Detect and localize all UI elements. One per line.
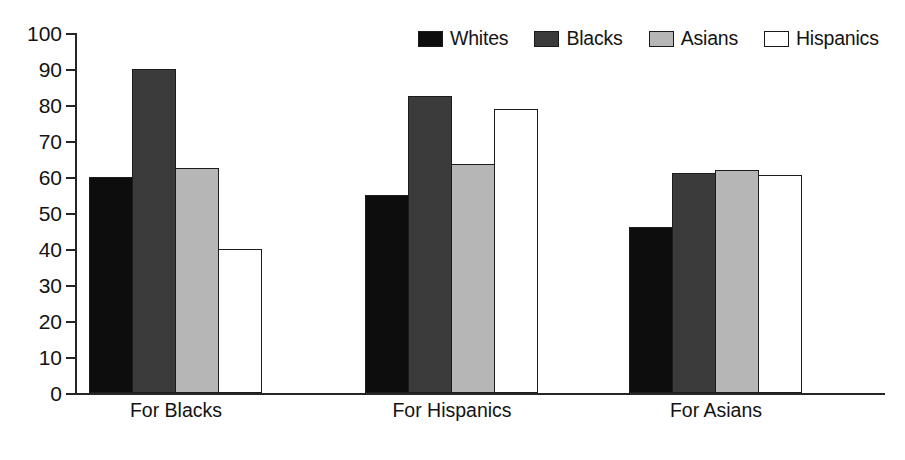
y-tick-mark: [66, 393, 75, 395]
y-tick-label: 90: [39, 59, 62, 80]
y-tick-mark: [66, 177, 75, 179]
plot-area: 0102030405060708090100 For BlacksFor His…: [75, 33, 885, 393]
y-tick-mark: [66, 213, 75, 215]
y-tick-label: 100: [27, 23, 62, 44]
x-axis-line: [75, 393, 885, 395]
bar-blacks-for-hispanics: [408, 96, 453, 393]
bar-whites-for-blacks: [89, 177, 134, 393]
category-label: For Blacks: [65, 401, 287, 421]
bar-group: [629, 33, 802, 393]
bar-asians-for-hispanics: [451, 164, 496, 393]
bar-group: [89, 33, 262, 393]
bar-whites-for-hispanics: [365, 195, 410, 393]
bar-groups: [77, 33, 885, 393]
bar-hispanics-for-asians: [758, 175, 803, 393]
bar-asians-for-asians: [715, 170, 760, 393]
bar-blacks-for-asians: [672, 173, 717, 393]
y-tick-label: 60: [39, 167, 62, 188]
bar-chart: Whites Blacks Asians Hispanics 010203040…: [0, 0, 905, 460]
y-tick-label: 30: [39, 275, 62, 296]
y-tick-mark: [66, 357, 75, 359]
bar-asians-for-blacks: [175, 168, 220, 393]
y-tick-label: 10: [39, 347, 62, 368]
bar-hispanics-for-blacks: [218, 249, 263, 393]
y-tick-mark: [66, 321, 75, 323]
y-tick-mark: [66, 141, 75, 143]
bar-hispanics-for-hispanics: [494, 109, 539, 393]
category-label: For Hispanics: [341, 401, 563, 421]
bar-group: [365, 33, 538, 393]
y-tick-mark: [66, 285, 75, 287]
y-tick-label: 20: [39, 311, 62, 332]
category-label: For Asians: [605, 401, 827, 421]
bar-blacks-for-blacks: [132, 69, 177, 393]
y-tick-label: 40: [39, 239, 62, 260]
y-tick-mark: [66, 33, 75, 35]
y-tick-label: 80: [39, 95, 62, 116]
y-tick-label: 50: [39, 203, 62, 224]
y-tick-mark: [66, 69, 75, 71]
bar-whites-for-asians: [629, 227, 674, 393]
y-tick-label: 0: [50, 383, 62, 404]
y-tick-mark: [66, 249, 75, 251]
y-tick-label: 70: [39, 131, 62, 152]
y-tick-mark: [66, 105, 75, 107]
